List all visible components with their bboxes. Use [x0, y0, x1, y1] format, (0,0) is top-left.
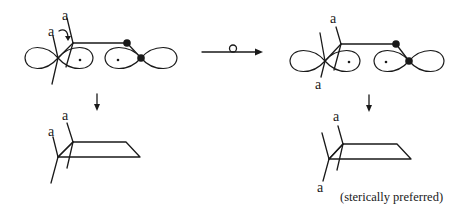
p-orbital-lobe-left [105, 48, 141, 69]
p-orbital-lobe-right [141, 48, 177, 69]
substituent-label-a: a [317, 180, 324, 195]
atom-filled-node [137, 54, 145, 62]
substituent-bond [51, 157, 58, 183]
arrowhead-icon [94, 104, 100, 111]
substituent-bond [338, 126, 343, 144]
orbital-center-dot [348, 61, 351, 64]
bottom-left-ring-product: a a [48, 108, 140, 183]
atom-filled-node [405, 57, 413, 65]
substituent-bond [323, 159, 329, 181]
substituent-label-a: a [333, 109, 340, 124]
reaction-arrow-circle-symbol [230, 45, 237, 52]
p-orbital-lobe-left [25, 48, 58, 69]
substituent-label-a: a [315, 77, 322, 92]
orbital-center-dot [117, 59, 120, 62]
arrowhead-icon [255, 49, 263, 56]
atom-filled-circle [392, 40, 400, 48]
down-arrow-right [366, 95, 372, 112]
p-orbital-lobe-left [290, 51, 325, 72]
reaction-diagram: a a a a [0, 0, 468, 206]
substituent-bond [336, 27, 341, 44]
orbital-center-dot [79, 59, 82, 62]
substituent-bond [322, 133, 329, 159]
substituent-label-a: a [62, 8, 69, 23]
bottom-right-ring-product: a a (sterically preferred) [317, 109, 443, 204]
substituent-label-a: a [330, 11, 337, 26]
substituent-bond [53, 137, 58, 157]
top-left-orbital-panel: a a [25, 8, 177, 84]
substituent-label-a: a [48, 24, 55, 39]
p-orbital-lobe-right [58, 48, 93, 69]
orbital-center-dot [385, 61, 388, 64]
atom-filled-circle [123, 39, 131, 47]
reaction-arrow [202, 45, 263, 56]
down-arrow-left [94, 94, 100, 111]
substituent-label-a: a [62, 108, 69, 123]
top-right-orbital-panel: a a [290, 11, 444, 92]
sterically-preferred-caption: (sterically preferred) [340, 190, 443, 204]
p-orbital-lobe-right [325, 51, 360, 72]
substituent-bond [67, 123, 73, 142]
substituent-label-a: a [48, 124, 55, 139]
arrowhead-icon [65, 36, 71, 41]
p-orbital-lobe-right [409, 51, 444, 72]
arrowhead-icon [366, 105, 372, 112]
